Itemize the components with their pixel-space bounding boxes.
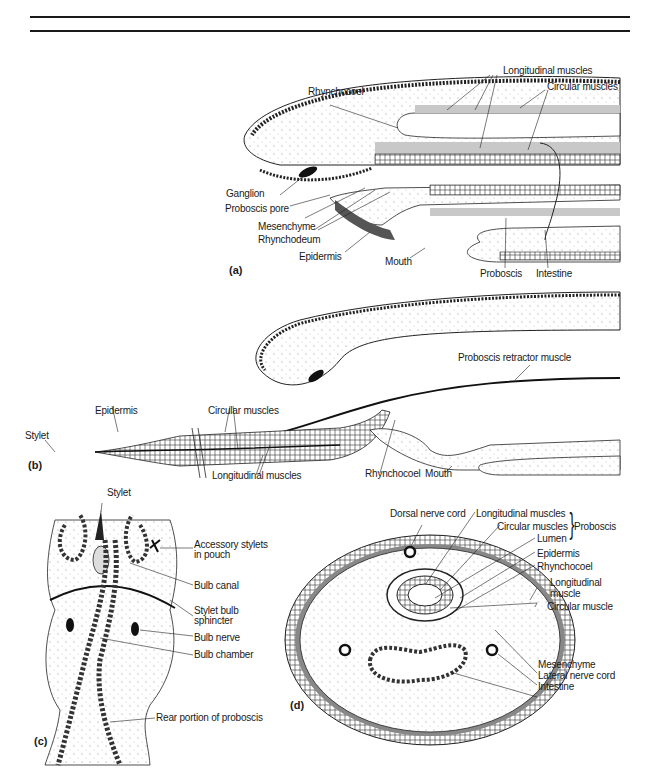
label-rhynchocoel-d: Rhynchocoel bbox=[537, 561, 593, 572]
label-circular-muscles-a: Circular muscles bbox=[547, 81, 618, 92]
label-proboscis-group: Proboscis bbox=[574, 521, 616, 532]
label-longitudinal-muscle-line1: Longitudinal bbox=[550, 577, 602, 588]
label-longitudinal-muscles-a: Longitudinal muscles bbox=[503, 65, 592, 76]
label-mesenchyme-d: Mesenchyme bbox=[538, 659, 595, 670]
label-rhynchodeum: Rhynchodeum bbox=[258, 234, 320, 245]
label-dorsal-nerve-cord: Dorsal nerve cord bbox=[390, 508, 466, 519]
label-intestine-d: Intestine bbox=[538, 681, 574, 692]
panel-label-a: (a) bbox=[229, 264, 242, 276]
label-bulb-nerve: Bulb nerve bbox=[194, 632, 240, 643]
label-stylet-b: Stylet bbox=[25, 430, 49, 441]
label-epidermis-a: Epidermis bbox=[299, 251, 342, 262]
label-bulb-canal: Bulb canal bbox=[194, 580, 239, 591]
label-ganglion: Ganglion bbox=[226, 188, 264, 199]
label-proboscis-retractor-muscle: Proboscis retractor muscle bbox=[458, 352, 571, 363]
panel-label-c: (c) bbox=[34, 735, 47, 747]
panel-label-d: (d) bbox=[290, 699, 304, 711]
label-longitudinal-muscles-d: Longitudinal muscles bbox=[476, 508, 565, 519]
label-proboscis-pore: Proboscis pore bbox=[225, 203, 289, 214]
label-longitudinal-muscles-b: Longitudinal muscles bbox=[212, 470, 301, 481]
panel-c-art bbox=[45, 510, 177, 765]
label-circular-muscles-b: Circular muscles bbox=[208, 405, 279, 416]
panel-d-art bbox=[285, 535, 575, 745]
label-circular-muscles-d: Circular muscles bbox=[497, 521, 568, 532]
label-mouth-a: Mouth bbox=[385, 256, 412, 267]
label-rhynchocoel-b: Rhynchocoel bbox=[365, 468, 421, 479]
label-stylet-bulb-sphincter-line2: sphincter bbox=[194, 615, 233, 626]
label-longitudinal-muscle-line2: muscle bbox=[550, 588, 580, 599]
label-mouth-b: Mouth bbox=[425, 468, 452, 479]
label-epidermis-d: Epidermis bbox=[537, 548, 580, 559]
label-intestine-a: Intestine bbox=[536, 268, 572, 279]
label-mesenchyme-a: Mesenchyme bbox=[258, 221, 315, 232]
label-lateral-nerve-cord: Lateral nerve cord bbox=[538, 670, 615, 681]
label-rear-portion-of-proboscis: Rear portion of proboscis bbox=[156, 712, 263, 723]
label-stylet-c: Stylet bbox=[107, 487, 131, 498]
label-bulb-chamber: Bulb chamber bbox=[194, 649, 253, 660]
label-circular-muscle-d: Circular muscle bbox=[547, 601, 613, 612]
label-proboscis-a: Proboscis bbox=[480, 268, 522, 279]
panel-label-b: (b) bbox=[28, 459, 42, 471]
panel-b-art bbox=[95, 292, 620, 478]
label-accessory-stylets-line2: in pouch bbox=[194, 549, 230, 560]
label-rhynchocoel-a: Rhynchocoel bbox=[308, 86, 364, 97]
label-epidermis-b: Epidermis bbox=[95, 405, 138, 416]
label-lumen: Lumen bbox=[537, 533, 567, 544]
